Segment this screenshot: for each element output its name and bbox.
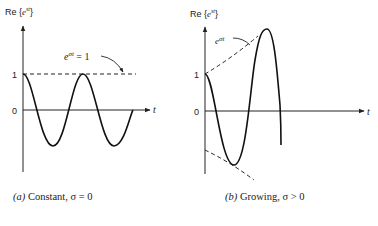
tick-zero-b: 0	[194, 107, 199, 117]
y-axis-label-a: Re {est}	[5, 6, 33, 17]
caption-b: (b) Growing, σ > 0	[225, 191, 305, 203]
caption-a: (a) Constant, σ = 0	[13, 191, 93, 203]
t-axis-label-b: t	[367, 106, 370, 117]
annotation-arrow-a	[101, 56, 123, 72]
signal-curve-b	[205, 29, 281, 165]
tick-one-b: 1	[194, 70, 199, 80]
tick-one-a: 1	[12, 70, 17, 80]
upper-envelope-b	[205, 36, 258, 74]
tick-zero-a: 0	[12, 106, 17, 116]
panel-b: Re {est} t 1 0 eσt (b) Growing, σ > 0	[190, 8, 370, 203]
figure-canvas: Re {est} t 1 0 eσt = 1 (a) Constant, σ =…	[0, 0, 378, 226]
annotation-leader-b	[233, 38, 250, 45]
envelope-annotation-a: eσt = 1	[64, 50, 90, 62]
panel-a: Re {est} t 1 0 eσt = 1 (a) Constant, σ =…	[5, 6, 156, 203]
lower-envelope-b	[205, 150, 254, 180]
y-axis-label-b: Re {est}	[190, 8, 218, 19]
envelope-annotation-b: eσt	[215, 35, 225, 46]
t-axis-label-a: t	[153, 104, 156, 115]
